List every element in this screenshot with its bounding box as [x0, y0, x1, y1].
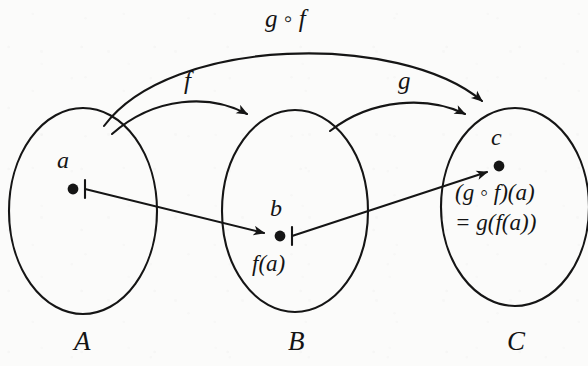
element-dot-c	[494, 161, 505, 172]
label-value-composite-of-a: (g ◦ f)(a)	[455, 181, 535, 204]
label-composite-function: g ◦ f	[265, 6, 306, 31]
arrow-g	[330, 103, 465, 131]
set-ellipse-C	[441, 108, 588, 306]
set-label-B: B	[288, 328, 305, 355]
arrow-composite-g-after-f	[104, 53, 482, 126]
label-element-c: c	[491, 125, 502, 149]
label-value-f-of-a: f(a)	[252, 252, 285, 275]
label-arrow-g: g	[398, 68, 411, 93]
set-label-C: C	[507, 328, 525, 355]
set-ellipse-B	[222, 110, 368, 312]
arrow-f	[112, 101, 247, 134]
label-arrow-f: f	[184, 68, 191, 93]
set-label-A: A	[74, 328, 91, 355]
label-element-b: b	[270, 196, 282, 220]
function-composition-figure: g ◦ f f g a b c f(a) (g ◦ f)(a) = g(f(a)…	[0, 0, 588, 366]
maplet-a-to-b	[85, 189, 264, 233]
element-dot-b	[275, 231, 286, 242]
label-element-a: a	[57, 148, 69, 172]
element-dot-a	[68, 184, 79, 195]
set-ellipse-A	[9, 108, 157, 314]
label-value-g-of-f-of-a: = g(f(a))	[455, 211, 536, 234]
